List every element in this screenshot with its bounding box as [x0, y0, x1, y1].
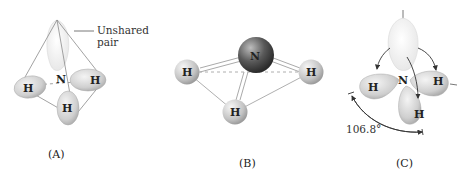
hydrogen-label: H — [368, 81, 378, 94]
hydrogen-label: H — [62, 102, 72, 115]
hydrogen-label: H — [414, 108, 424, 121]
hydrogen-orbital-left — [360, 74, 399, 99]
nitrogen-label: N — [398, 74, 408, 87]
panel-caption: (C) — [396, 157, 413, 170]
lone-pair-orbital — [388, 18, 418, 71]
ammonia-geometry-figure: N H H H Unshared pair (A) N H H — [0, 0, 465, 178]
hydrogen-label: H — [433, 75, 443, 88]
nitrogen-label: N — [56, 73, 66, 86]
hydrogen-label: H — [230, 106, 240, 119]
panel-b: N H H H (B) — [175, 37, 324, 170]
hydrogen-label: H — [23, 82, 33, 95]
nitrogen-label: N — [250, 50, 260, 63]
hydrogen-orbital-right — [70, 69, 106, 91]
panel-c: N H H H 106.8° (C) — [346, 10, 457, 170]
base-triangle — [187, 72, 311, 112]
hydrogen-label: H — [90, 74, 100, 87]
bond-angle-label: 106.8° — [346, 123, 381, 135]
panel-caption: (B) — [239, 157, 256, 170]
unshared-pair-label: Unshared — [97, 24, 149, 36]
lone-pair-orbital — [47, 20, 69, 71]
panel-a: N H H H Unshared pair (A) — [12, 20, 149, 161]
unshared-pair-label-line2: pair — [97, 36, 119, 48]
panel-caption: (A) — [48, 148, 65, 161]
hydrogen-label: H — [306, 66, 316, 79]
hydrogen-label: H — [182, 66, 192, 79]
